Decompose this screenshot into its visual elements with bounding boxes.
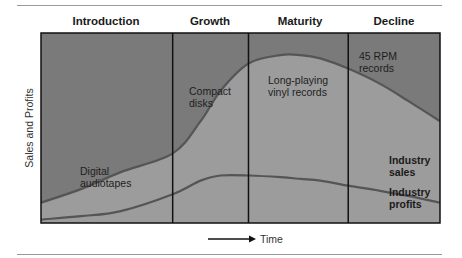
x-axis-label: Time [260,233,283,245]
stage-label-maturity: Maturity [278,15,323,27]
annotation-long-playing-vinyl: Long-playing vinyl records [268,74,331,98]
y-axis-label: Sales and Profits [23,88,35,167]
time-arrow [208,236,256,243]
stage-label-growth: Growth [190,15,230,27]
time-arrow-head [249,236,256,243]
annotation-45-rpm-records: 45 RPM records [359,50,400,74]
stage-label-introduction: Introduction [72,15,139,27]
product-life-cycle-chart: Introduction Growth Maturity Decline Sal… [0,0,462,258]
stage-label-decline: Decline [374,15,415,27]
